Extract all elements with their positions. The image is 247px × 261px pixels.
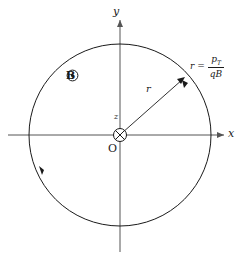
radius-label: r <box>146 84 151 94</box>
radius-formula: r = pT qB <box>190 54 224 79</box>
formula-numerator: pT <box>209 54 223 67</box>
origin-label: O <box>108 143 117 154</box>
y-axis-label: y <box>113 6 119 17</box>
formula-numerator-subscript: T <box>217 59 221 66</box>
formula-fraction: pT qB <box>208 54 224 79</box>
y-axis-arrowhead <box>117 20 123 27</box>
magnetic-field-annotation: B <box>66 69 75 82</box>
formula-denominator: qB <box>208 68 224 79</box>
trajectory-direction-arrow-lower <box>39 166 44 175</box>
field-icon-dot <box>71 74 74 77</box>
z-axis-label: z <box>114 113 118 121</box>
formula-equals: = <box>197 61 205 71</box>
physics-diagram: y x z O r B r = pT qB <box>0 0 247 261</box>
formula-lhs: r <box>190 61 194 71</box>
diagram-canvas <box>0 0 247 261</box>
radius-segment <box>122 79 183 133</box>
radius-line <box>122 77 185 133</box>
cross-in-circle-icon <box>114 129 127 142</box>
x-axis-arrowhead <box>217 132 224 138</box>
x-axis-label: x <box>228 128 234 139</box>
dot-in-circle-icon <box>66 69 79 82</box>
trajectory-direction-arrow-upper <box>182 80 188 88</box>
